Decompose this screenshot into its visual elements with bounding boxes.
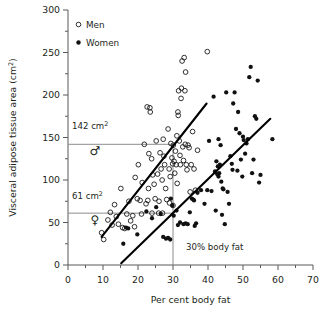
x-tick-label: 10 <box>97 274 109 285</box>
y-axis-tick-labels: 050100150200250300 <box>42 4 60 270</box>
data-point-men <box>175 181 180 186</box>
x-tick-label: 60 <box>272 274 284 285</box>
data-point-women <box>186 222 190 226</box>
data-point-women <box>205 188 209 192</box>
data-point-men <box>154 139 159 144</box>
data-point-men <box>160 178 165 183</box>
data-point-men <box>147 151 152 156</box>
data-point-men <box>179 96 184 101</box>
annotation-61-cm2: 61 cm2 <box>72 190 103 201</box>
data-point-men <box>128 218 133 223</box>
x-axis-title: Per cent body fat <box>151 294 231 305</box>
data-point-men <box>119 186 124 191</box>
data-point-men <box>175 133 180 138</box>
data-point-women <box>256 78 260 82</box>
x-tick-label: 30 <box>167 274 179 285</box>
data-point-men <box>133 175 138 180</box>
data-point-men <box>195 148 200 153</box>
data-point-men <box>183 88 188 93</box>
data-point-men <box>146 186 151 191</box>
data-point-men <box>173 149 178 154</box>
data-point-women <box>169 197 173 201</box>
female-symbol: ♀ <box>91 213 100 227</box>
regression-line-men <box>102 104 207 237</box>
data-point-women <box>243 152 247 156</box>
data-point-men <box>132 224 137 229</box>
regression-lines <box>102 104 271 264</box>
data-point-women <box>221 186 225 190</box>
reference-lines <box>68 144 173 265</box>
x-axis-tick-labels: 010203040506070 <box>65 274 319 285</box>
data-point-women <box>209 189 213 193</box>
x-tick-label: 0 <box>65 274 71 285</box>
data-point-women <box>225 190 229 194</box>
data-point-women <box>240 174 244 178</box>
data-point-men <box>190 129 195 134</box>
data-point-women <box>219 180 223 184</box>
annotation-30-percent-body-fat: 30% body fat <box>186 242 244 252</box>
data-point-men <box>205 49 210 54</box>
data-point-men <box>163 186 168 191</box>
data-point-men <box>192 167 197 172</box>
data-point-women <box>207 139 211 143</box>
data-point-men <box>178 153 183 158</box>
x-tick-label: 40 <box>202 274 214 285</box>
y-tick-label: 250 <box>42 47 60 58</box>
annotation-142-cm2: 142 cm2 <box>72 120 108 131</box>
data-point-men <box>183 70 188 75</box>
y-axis-ticks <box>63 10 68 265</box>
data-point-women <box>251 157 255 161</box>
data-point-women <box>144 209 148 213</box>
data-point-women <box>254 117 258 121</box>
data-point-women <box>239 157 243 161</box>
legend-label-men: Men <box>86 20 105 30</box>
data-point-men <box>161 137 166 142</box>
data-point-men <box>184 162 189 167</box>
x-tick-label: 50 <box>237 274 249 285</box>
data-point-women <box>168 237 172 241</box>
data-point-men <box>108 210 113 215</box>
x-axis-ticks <box>68 265 313 270</box>
y-tick-label: 200 <box>42 89 60 100</box>
x-tick-label: 70 <box>307 274 319 285</box>
data-point-women <box>235 169 239 173</box>
data-point-women <box>223 222 227 226</box>
data-point-women <box>234 127 238 131</box>
data-point-men <box>162 162 167 167</box>
data-point-women <box>214 159 218 163</box>
y-axis-title: Visceral adipose tissue area (cm2) <box>7 58 18 216</box>
data-point-women <box>154 205 158 209</box>
data-point-women <box>258 173 262 177</box>
data-point-men <box>145 105 150 110</box>
legend-label-women: Women <box>86 38 119 48</box>
data-point-women <box>159 212 163 216</box>
data-point-women <box>270 137 274 141</box>
data-point-men <box>158 150 163 155</box>
data-point-women <box>188 210 192 214</box>
data-point-women <box>227 202 231 206</box>
data-point-men <box>106 218 111 223</box>
data-point-men <box>130 213 135 218</box>
data-point-men <box>189 162 194 167</box>
data-point-women <box>249 65 253 69</box>
data-point-men <box>157 199 162 204</box>
x-tick-label: 20 <box>132 274 144 285</box>
data-point-women <box>192 198 196 202</box>
data-point-men <box>139 212 144 217</box>
data-point-men <box>185 167 190 172</box>
data-point-women <box>220 213 224 217</box>
legend-marker-women <box>76 40 80 44</box>
data-point-women <box>237 131 241 135</box>
data-point-women <box>135 232 139 236</box>
data-point-women <box>121 242 125 246</box>
chart-figure: 050100150200250300 010203040506070 Per c… <box>0 0 324 314</box>
series-women-points <box>121 65 274 246</box>
data-point-women <box>257 180 261 184</box>
legend: Men Women <box>76 20 119 48</box>
data-point-men <box>152 182 157 187</box>
data-point-women <box>202 202 206 206</box>
male-symbol: ♂ <box>90 144 101 158</box>
data-point-women <box>241 135 245 139</box>
data-point-women <box>217 171 221 175</box>
y-tick-label: 300 <box>42 4 60 15</box>
